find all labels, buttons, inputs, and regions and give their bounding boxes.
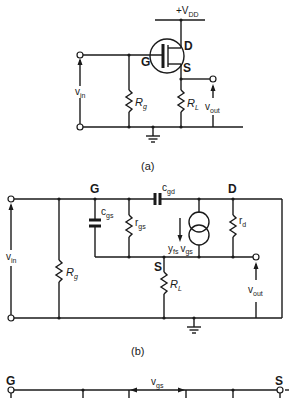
input-terminal-top <box>8 196 14 202</box>
input-terminal-bottom <box>77 124 83 130</box>
drain-label: D <box>184 39 193 53</box>
drain-label: D <box>228 182 237 196</box>
vgs-arrow-left-icon <box>130 388 137 393</box>
vgs-arrow-right-icon <box>178 388 185 393</box>
gate-label: G <box>6 374 15 388</box>
source-label: S <box>183 61 191 75</box>
input-terminal-top <box>77 52 83 58</box>
current-arrow-icon <box>178 235 183 242</box>
load-resistor <box>178 90 184 112</box>
vout-label: vout <box>205 101 220 114</box>
output-terminal <box>210 76 216 82</box>
current-source-icon <box>189 212 209 232</box>
ground-icon <box>187 318 201 333</box>
current-source-label: yfsvgs <box>168 243 193 256</box>
gate-resistor <box>126 90 132 112</box>
vin-label: vin <box>75 86 86 99</box>
vout-arrow-icon <box>211 84 216 91</box>
input-terminal-bottom <box>8 315 14 321</box>
vout-arrow-icon <box>254 262 259 269</box>
vdd-label: +VDD <box>176 5 199 18</box>
mosfet-symbol <box>150 39 184 73</box>
gate-label: G <box>141 55 150 69</box>
vgs-label: vgs <box>151 376 164 390</box>
rgs-label: rgs <box>135 217 146 231</box>
caption-b: (b) <box>131 345 144 357</box>
rl-label: RL <box>187 97 199 111</box>
rd-label: rd <box>239 215 246 228</box>
cgs-label: cgs <box>101 206 114 220</box>
gate-resistor <box>56 260 62 282</box>
load-resistor <box>161 272 167 294</box>
circuit-a: +VDD D S G RL Rg <box>75 5 243 172</box>
rg-label: Rg <box>135 96 147 111</box>
rl-label: RL <box>170 278 182 292</box>
source-label: S <box>154 260 162 274</box>
rg-label: Rg <box>66 266 78 281</box>
ground-icon <box>146 127 160 142</box>
rd-resistor <box>230 215 236 237</box>
vin-arrow-icon <box>78 58 83 65</box>
caption-a: (a) <box>141 160 154 172</box>
circuit-b: G D cgd cgs rgs yfsvgs <box>6 182 282 357</box>
vin-arrow-icon <box>9 203 14 210</box>
gate-terminal <box>8 387 14 393</box>
output-terminal <box>253 254 259 260</box>
rgs-resistor <box>126 215 132 237</box>
gate-label: G <box>90 182 99 196</box>
cgs-capacitor <box>89 220 101 226</box>
vout-label: vout <box>248 284 263 297</box>
source-label: S <box>275 374 283 388</box>
cgd-label: cgd <box>162 182 175 196</box>
cgd-capacitor <box>155 193 160 205</box>
vin-label: vin <box>6 251 17 264</box>
circuit-c: G S vgs <box>6 374 289 398</box>
circuit-diagram: +VDD D S G RL Rg <box>0 0 293 398</box>
source-terminal <box>277 387 283 393</box>
